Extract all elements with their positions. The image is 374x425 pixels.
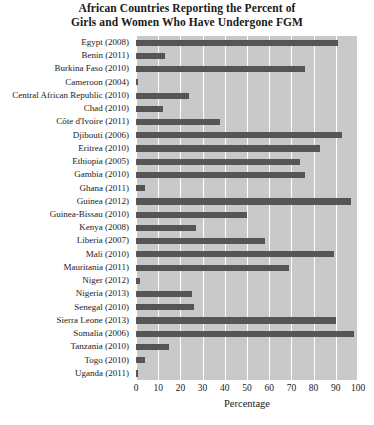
bar — [136, 212, 247, 218]
bar — [136, 265, 289, 271]
y-axis-label: Senegal (2010) — [0, 301, 132, 314]
y-axis-label: Mauritania (2011) — [0, 261, 132, 274]
bar-row — [136, 367, 358, 380]
y-axis-label: Ethiopia (2005) — [0, 155, 132, 168]
bar — [136, 93, 189, 99]
x-tick-label: 50 — [242, 382, 252, 395]
bar — [136, 79, 138, 85]
bar — [136, 370, 138, 376]
bar-row — [136, 155, 358, 168]
bar-row — [136, 142, 358, 155]
x-tick-label: 0 — [134, 382, 139, 395]
chart-figure: African Countries Reporting the Percent … — [0, 0, 374, 425]
bar-row — [136, 168, 358, 181]
bar — [136, 159, 300, 165]
bar — [136, 119, 220, 125]
x-tick-label: 100 — [351, 382, 365, 395]
x-tick-label: 80 — [309, 382, 319, 395]
chart-title-line-1: African Countries Reporting the Percent … — [0, 2, 374, 16]
bar-row — [136, 261, 358, 274]
y-axis-label: Mali (2010) — [0, 248, 132, 261]
y-axis-label: Liberia (2007) — [0, 234, 132, 247]
bar-row — [136, 208, 358, 221]
y-axis-label: Cameroon (2004) — [0, 76, 132, 89]
y-axis-label: Djibouti (2006) — [0, 129, 132, 142]
bar-row — [136, 195, 358, 208]
bar — [136, 66, 305, 72]
bar — [136, 344, 169, 350]
bar-row — [136, 62, 358, 75]
x-tick-label: 10 — [153, 382, 163, 395]
bar-row — [136, 129, 358, 142]
chart-title-line-2: Girls and Women Who Have Undergone FGM — [0, 16, 374, 30]
x-tick-label: 70 — [287, 382, 297, 395]
bar — [136, 185, 145, 191]
chart-title: African Countries Reporting the Percent … — [0, 2, 374, 29]
y-axis-label: Eritrea (2010) — [0, 142, 132, 155]
bar — [136, 225, 196, 231]
y-axis-label: Kenya (2008) — [0, 221, 132, 234]
bar-row — [136, 115, 358, 128]
y-axis-label: Burkina Faso (2010) — [0, 62, 132, 75]
bar-row — [136, 102, 358, 115]
y-axis-label: Côte d'Ivoire (2011) — [0, 115, 132, 128]
plot-region — [136, 36, 358, 380]
bar — [136, 238, 265, 244]
y-axis-label: Niger (2012) — [0, 274, 132, 287]
x-axis-tick-labels: 0102030405060708090100 — [136, 382, 358, 396]
y-axis-label: Togo (2010) — [0, 354, 132, 367]
bar-row — [136, 287, 358, 300]
bar-row — [136, 327, 358, 340]
x-tick-label: 20 — [176, 382, 186, 395]
bar — [136, 357, 145, 363]
x-tick-label: 30 — [198, 382, 208, 395]
bar — [136, 331, 354, 337]
y-axis-label: Uganda (2011) — [0, 367, 132, 380]
bar — [136, 198, 351, 204]
bar — [136, 317, 336, 323]
bar-row — [136, 36, 358, 49]
y-axis-label: Central African Republic (2010) — [0, 89, 132, 102]
bar-row — [136, 89, 358, 102]
x-tick-label: 90 — [331, 382, 341, 395]
y-axis-label: Gambia (2010) — [0, 168, 132, 181]
y-axis-label: Guinea (2012) — [0, 195, 132, 208]
bar-row — [136, 221, 358, 234]
bar — [136, 304, 194, 310]
bar-row — [136, 340, 358, 353]
x-axis-title: Percentage — [136, 398, 358, 409]
y-axis-label: Guinea-Bissau (2010) — [0, 208, 132, 221]
bar-row — [136, 234, 358, 247]
y-axis-label: Benin (2011) — [0, 49, 132, 62]
x-tick-label: 40 — [220, 382, 230, 395]
bar-row — [136, 49, 358, 62]
bar — [136, 40, 338, 46]
bar — [136, 172, 305, 178]
bar-row — [136, 182, 358, 195]
bar-row — [136, 314, 358, 327]
y-axis-label: Egypt (2008) — [0, 36, 132, 49]
bar — [136, 106, 163, 112]
bar-row — [136, 274, 358, 287]
y-axis-label: Tanzania (2010) — [0, 340, 132, 353]
bar — [136, 132, 342, 138]
plot-area — [136, 36, 358, 380]
bar — [136, 291, 192, 297]
bar-row — [136, 76, 358, 89]
bar — [136, 278, 140, 284]
bar — [136, 145, 320, 151]
bar — [136, 53, 165, 59]
bar — [136, 251, 334, 257]
y-axis-label: Sierra Leone (2013) — [0, 314, 132, 327]
y-axis-label: Nigeria (2013) — [0, 287, 132, 300]
y-axis-label: Chad (2010) — [0, 102, 132, 115]
x-tick-label: 60 — [264, 382, 274, 395]
y-axis-label: Ghana (2011) — [0, 182, 132, 195]
bar-row — [136, 301, 358, 314]
y-axis-label: Somalia (2006) — [0, 327, 132, 340]
bar-row — [136, 248, 358, 261]
y-axis-category-labels: Egypt (2008)Benin (2011)Burkina Faso (20… — [0, 36, 132, 380]
bar-row — [136, 354, 358, 367]
